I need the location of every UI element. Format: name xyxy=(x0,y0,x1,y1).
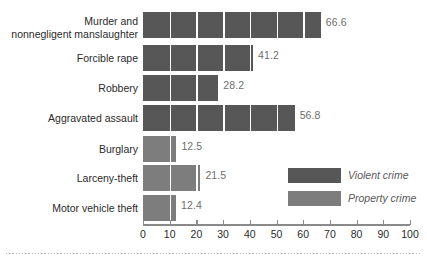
x-axis-tick-label: 30 xyxy=(217,228,229,240)
x-axis-tick-label: 20 xyxy=(191,228,203,240)
legend-swatch xyxy=(288,191,341,206)
x-axis-tick-label: 0 xyxy=(140,228,146,240)
x-axis-tick-label: 90 xyxy=(377,228,389,240)
x-axis-tick xyxy=(383,220,384,225)
category-label: Forcible rape xyxy=(0,52,138,65)
bar-segment-separators xyxy=(143,45,253,71)
bar-row: 28.2 xyxy=(143,75,410,101)
x-axis-tick xyxy=(303,220,304,225)
bar xyxy=(143,195,176,221)
bar xyxy=(143,12,321,38)
x-axis-tick-label: 40 xyxy=(244,228,256,240)
bar-chart: Murder and nonnegligent manslaughterForc… xyxy=(0,0,427,261)
legend-swatch xyxy=(288,168,341,183)
bar xyxy=(143,45,253,71)
x-axis-tick xyxy=(196,220,197,225)
bar xyxy=(143,136,176,162)
bar-row: 12.5 xyxy=(143,136,410,162)
category-label: Burglary xyxy=(0,143,138,156)
category-label: Aggravated assault xyxy=(0,112,138,125)
bar-row: 41.2 xyxy=(143,45,410,71)
legend-label: Property crime xyxy=(348,192,416,204)
category-label-axis: Murder and nonnegligent manslaughterForc… xyxy=(0,0,138,261)
bar-segment-separators xyxy=(143,165,200,191)
bottom-dotted-rule xyxy=(6,253,421,254)
bar-row: 56.8 xyxy=(143,105,410,131)
x-axis-tick xyxy=(143,220,144,225)
bar-segment-separators xyxy=(143,136,176,162)
bar xyxy=(143,75,218,101)
x-axis-tick xyxy=(170,220,171,225)
bar-value-label: 41.2 xyxy=(258,49,279,61)
bar-value-label: 56.8 xyxy=(300,109,321,121)
bar-segment-separators xyxy=(143,195,176,221)
category-label: Motor vehicle theft xyxy=(0,202,138,215)
bar-segment-separators xyxy=(143,75,218,101)
bar xyxy=(143,165,200,191)
x-axis-tick xyxy=(410,220,411,225)
bar xyxy=(143,105,295,131)
bar-value-label: 66.6 xyxy=(326,16,347,28)
bar-segment-separators xyxy=(143,12,321,38)
category-label: Robbery xyxy=(0,82,138,95)
bar-row: 66.6 xyxy=(143,12,410,38)
x-axis-tick xyxy=(357,220,358,225)
legend-label: Violent crime xyxy=(348,169,409,181)
category-label: Larceny-theft xyxy=(0,172,138,185)
x-axis-tick-label: 80 xyxy=(351,228,363,240)
bar-value-label: 21.5 xyxy=(205,169,226,181)
bar-value-label: 12.5 xyxy=(181,140,202,152)
x-axis-tick xyxy=(250,220,251,225)
bar-value-label: 12.4 xyxy=(181,199,202,211)
x-axis-tick-label: 10 xyxy=(164,228,176,240)
x-axis-tick-label: 100 xyxy=(401,228,419,240)
x-axis-tick xyxy=(277,220,278,225)
x-axis-tick-label: 50 xyxy=(271,228,283,240)
x-axis-tick xyxy=(330,220,331,225)
x-axis-tick-label: 70 xyxy=(324,228,336,240)
category-label: Murder and nonnegligent manslaughter xyxy=(0,15,138,40)
x-axis-tick-label: 60 xyxy=(297,228,309,240)
bar-value-label: 28.2 xyxy=(223,79,244,91)
x-axis-tick xyxy=(223,220,224,225)
bar-segment-separators xyxy=(143,105,295,131)
